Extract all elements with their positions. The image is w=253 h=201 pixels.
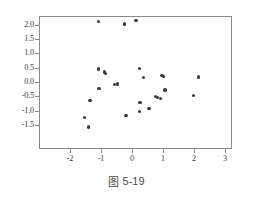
data-point	[138, 67, 141, 70]
figure-container: 2.01.51.00.50.0-0.5-1.0-1.5 -2-10123 图 5…	[0, 0, 253, 201]
data-point	[124, 114, 127, 117]
data-point	[97, 87, 100, 90]
y-axis-tick-label: 0.5	[24, 64, 34, 72]
data-point	[97, 20, 100, 23]
data-point	[88, 99, 91, 102]
data-point	[162, 75, 165, 78]
data-points-layer	[40, 17, 231, 148]
x-axis-tick-label: 3	[210, 155, 240, 163]
x-axis-tick	[194, 149, 195, 153]
y-axis-tick	[35, 125, 39, 126]
data-point	[159, 97, 162, 100]
y-axis-tick	[35, 53, 39, 54]
data-point	[104, 72, 107, 75]
data-point	[138, 101, 141, 104]
data-point	[192, 94, 195, 97]
figure-caption: 图 5-19	[0, 175, 253, 189]
y-axis-tick-label: 1.5	[24, 35, 34, 43]
data-point	[142, 76, 145, 79]
y-axis-tick-label: -1.5	[22, 121, 34, 129]
x-axis-tick	[101, 149, 102, 153]
data-point	[116, 82, 119, 85]
y-axis-tick-label: 1.0	[24, 49, 34, 57]
x-axis-tick	[225, 149, 226, 153]
data-point	[97, 67, 100, 70]
y-axis-tick-label: 2.0	[24, 21, 34, 29]
y-axis-tick	[35, 39, 39, 40]
x-axis-tick	[70, 149, 71, 153]
y-axis-tick	[35, 68, 39, 69]
data-point	[147, 107, 150, 110]
caption-text: 5-19	[123, 175, 145, 187]
scatter-plot-frame	[39, 16, 232, 149]
x-axis-tick	[132, 149, 133, 153]
x-axis-tick-label: -1	[86, 155, 116, 163]
y-axis-tick	[35, 25, 39, 26]
x-axis-tick-label: 0	[117, 155, 147, 163]
y-axis-tick-label: -0.5	[22, 92, 34, 100]
data-point	[83, 116, 86, 119]
data-point	[87, 125, 90, 128]
data-point	[163, 88, 166, 91]
caption-symbol: 图	[108, 176, 119, 189]
x-axis-tick-label: -2	[55, 155, 85, 163]
y-axis-tick-label: -1.0	[22, 107, 34, 115]
data-point	[138, 110, 141, 113]
x-axis-tick-label: 1	[148, 155, 178, 163]
y-axis-tick	[35, 111, 39, 112]
x-axis-tick-label: 2	[179, 155, 209, 163]
x-axis-tick	[163, 149, 164, 153]
data-point	[123, 22, 126, 25]
data-point	[197, 75, 200, 78]
y-axis-tick	[35, 82, 39, 83]
y-axis-tick	[35, 96, 39, 97]
y-axis-tick-label: 0.0	[24, 78, 34, 86]
data-point	[134, 19, 137, 22]
